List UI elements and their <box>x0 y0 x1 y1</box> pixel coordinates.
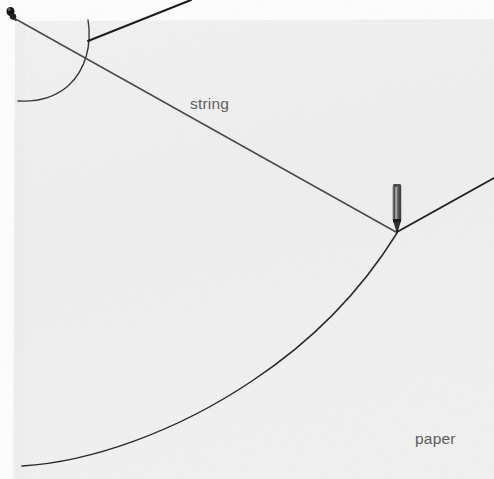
paper-edge-shadow <box>15 21 25 479</box>
paper-grain <box>0 0 494 479</box>
label-string: string <box>190 95 229 113</box>
figure-canvas: string paper <box>0 0 494 479</box>
label-paper: paper <box>415 430 456 448</box>
figure-illustration <box>0 0 494 479</box>
